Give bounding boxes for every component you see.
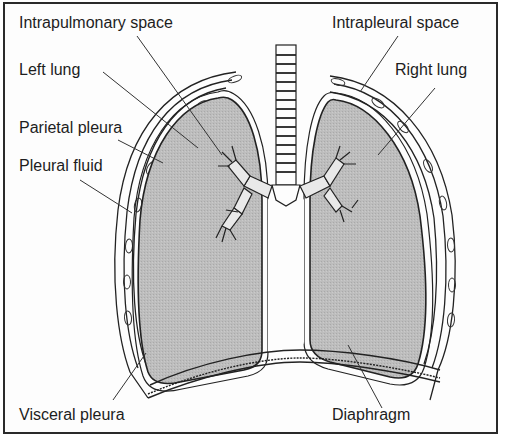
label-diaphragm: Diaphragm xyxy=(332,407,410,423)
label-right-lung: Right lung xyxy=(395,62,467,78)
label-pleural-fluid: Pleural fluid xyxy=(19,158,103,174)
label-left-lung: Left lung xyxy=(19,62,80,78)
label-parietal-pleura: Parietal pleura xyxy=(19,120,122,136)
right-lung-shape xyxy=(310,100,426,378)
label-visceral-pleura: Visceral pleura xyxy=(19,407,125,423)
label-intrapleural-space: Intrapleural space xyxy=(332,15,459,31)
label-intrapulmonary-space: Intrapulmonary space xyxy=(19,15,173,31)
trachea xyxy=(272,45,300,206)
